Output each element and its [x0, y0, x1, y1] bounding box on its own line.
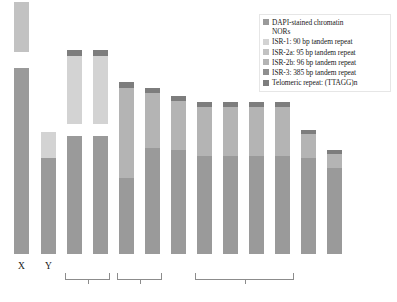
legend-swatch-icon [263, 69, 269, 75]
chromosome-12 [301, 130, 316, 254]
chromosome-4 [93, 50, 108, 254]
chromosome-13 [327, 150, 342, 254]
legend-label: ISR-1: 90 bp tandem repeat [272, 37, 352, 46]
segment-isr2b [223, 107, 238, 156]
legend-item-dapi-nors: DAPI-stained chromatin NORs [263, 18, 387, 36]
segment-dapi [301, 158, 316, 254]
legend-label: ISR-2b: 96 bp tandem repeat [272, 58, 356, 67]
segment-dapi [197, 156, 212, 254]
segment-dapi [275, 156, 290, 254]
segment-nor [67, 124, 82, 136]
segment-dapi [171, 150, 186, 254]
segment-isr2b [249, 107, 264, 156]
segment-isr2b [119, 88, 134, 178]
figure-canvas: XY DAPI-stained chromatin NORsISR-1: 90 … [0, 0, 397, 302]
segment-nor [14, 52, 29, 68]
chromosome-6 [145, 88, 160, 254]
legend-swatch-icon [263, 39, 269, 45]
legend-box: DAPI-stained chromatin NORsISR-1: 90 bp … [259, 14, 391, 92]
legend-swatch-icon [263, 49, 269, 55]
segment-isr2b [301, 134, 316, 158]
segment-isr2b [197, 107, 212, 156]
segment-isr2b [145, 93, 160, 148]
legend-item-isr-1: ISR-1: 90 bp tandem repeat [263, 37, 387, 46]
bracket-pair-1 [65, 273, 110, 280]
segment-isr2b [327, 154, 342, 168]
legend-label: ISR-3: 385 bp tandem repeat [272, 68, 356, 77]
segment-dapi [249, 156, 264, 254]
segment-dapi [119, 178, 134, 254]
chromosome-3 [67, 50, 82, 254]
chromosome-8 [197, 102, 212, 254]
chromosome-label-Y: Y [39, 260, 59, 272]
legend-item-telomeric: Telomeric repeat: (TTAGG)n [263, 78, 387, 87]
segment-dapi [145, 148, 160, 254]
legend-swatch-icon [263, 80, 269, 86]
bracket-group-3 [195, 273, 294, 280]
legend-label: DAPI-stained chromatin NORs [272, 18, 343, 36]
segment-dapi [67, 136, 82, 254]
legend-item-isr-2a: ISR-2a: 95 bp tandem repeat [263, 48, 387, 57]
chromosome-11 [275, 102, 290, 254]
legend-label: Telomeric repeat: (TTAGG)n [272, 78, 357, 87]
chromosome-5 [119, 82, 134, 254]
chromosome-10 [249, 102, 264, 254]
segment-dapi [14, 68, 29, 254]
segment-isr2a [14, 2, 29, 52]
segment-isr1 [67, 56, 82, 124]
segment-nor [93, 124, 108, 136]
segment-isr1 [41, 132, 56, 158]
bracket-pair-2 [117, 273, 162, 280]
legend-label: ISR-2a: 95 bp tandem repeat [272, 48, 356, 57]
segment-isr2b [171, 101, 186, 150]
chromosome-7 [171, 96, 186, 254]
segment-dapi [41, 158, 56, 254]
segment-dapi [327, 168, 342, 254]
segment-isr1 [93, 56, 108, 124]
segment-isr2b [275, 107, 290, 156]
legend-item-isr-3: ISR-3: 385 bp tandem repeat [263, 68, 387, 77]
chromosome-9 [223, 102, 238, 254]
segment-dapi [93, 136, 108, 254]
legend-swatch-icon [263, 59, 269, 65]
segment-dapi [223, 156, 238, 254]
legend-swatch-icon [263, 19, 269, 25]
chromosome-X [14, 2, 29, 254]
chromosome-label-X: X [12, 260, 32, 272]
legend-item-isr-2b: ISR-2b: 96 bp tandem repeat [263, 58, 387, 67]
chromosome-Y [41, 132, 56, 254]
